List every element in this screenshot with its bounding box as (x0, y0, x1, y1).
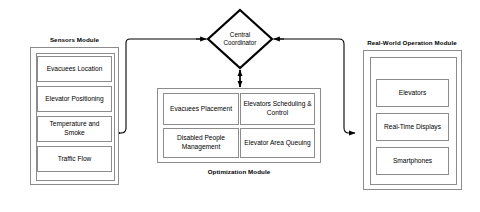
sensors-item-label: Elevator Positioning (45, 95, 103, 104)
optimization-item-label: Elevator Area Queuing (244, 139, 310, 148)
sensors-item-evacuees-location[interactable]: Evacuees Location (37, 56, 112, 82)
sensors-item-traffic-flow[interactable]: Traffic Flow (37, 146, 112, 172)
sensors-item-label: Temperature and Smoke (40, 120, 109, 138)
optimization-item-disabled-people-management[interactable]: Disabled People Management (163, 128, 239, 158)
sensors-item-label: Evacuees Location (47, 65, 103, 74)
central-coordinator-label-line2: Coordinator (224, 39, 257, 47)
sensors-item-elevator-positioning[interactable]: Elevator Positioning (37, 86, 112, 112)
real-world-item-label: Smartphones (393, 157, 432, 166)
optimization-item-label: Disabled People Management (166, 134, 236, 152)
optimization-item-elevators-scheduling-control[interactable]: Elevators Scheduling & Control (240, 93, 315, 125)
central-coordinator[interactable]: Central Coordinator (207, 9, 273, 69)
real-world-item-elevators[interactable]: Elevators (376, 79, 449, 107)
optimization-item-label: Evacuees Placement (170, 105, 232, 114)
sensors-item-label: Traffic Flow (58, 155, 92, 164)
sensors-item-temperature-and-smoke[interactable]: Temperature and Smoke (37, 116, 112, 142)
optimization-module-title: Optimization Module (157, 168, 321, 175)
real-world-module-title: Real-World Operation Module (360, 39, 464, 46)
central-coordinator-label-line1: Central (230, 31, 250, 39)
central-coordinator-label: Central Coordinator (207, 9, 273, 69)
optimization-item-label: Elevators Scheduling & Control (243, 100, 312, 118)
sensors-module-title: Sensors Module (30, 36, 119, 43)
diagram-canvas: Central Coordinator Sensors Module Evacu… (0, 0, 480, 212)
real-world-item-label: Elevators (399, 89, 427, 98)
optimization-item-elevator-area-queuing[interactable]: Elevator Area Queuing (240, 128, 315, 158)
real-world-item-real-time-displays[interactable]: Real-Time Displays (376, 113, 449, 141)
real-world-item-label: Real-Time Displays (384, 123, 441, 132)
optimization-item-evacuees-placement[interactable]: Evacuees Placement (163, 93, 239, 125)
real-world-item-smartphones[interactable]: Smartphones (376, 147, 449, 175)
